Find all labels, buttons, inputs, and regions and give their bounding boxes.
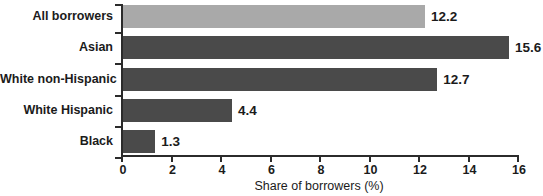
- x-tick: [121, 155, 123, 162]
- bar-chart: All borrowers12.2Asian15.6White non-Hisp…: [0, 0, 543, 196]
- bar-value-label: 15.6: [515, 36, 541, 59]
- bar-row: Black1.3: [0, 130, 543, 153]
- x-tick-label: 14: [450, 163, 490, 177]
- category-label: All borrowers: [0, 5, 113, 28]
- x-tick-label: 16: [499, 163, 539, 177]
- bar-value-label: 12.2: [431, 5, 457, 28]
- bar: [123, 130, 155, 153]
- y-tick: [115, 126, 122, 128]
- x-axis-title: Share of borrowers (%): [121, 179, 517, 193]
- x-tick-label: 10: [351, 163, 391, 177]
- bar-row: White Hispanic4.4: [0, 99, 543, 122]
- x-tick: [270, 155, 272, 162]
- y-tick: [115, 32, 122, 34]
- category-label: Black: [0, 130, 113, 153]
- x-tick-label: 8: [301, 163, 341, 177]
- y-tick: [115, 95, 122, 97]
- bar: [123, 99, 232, 122]
- x-tick: [418, 155, 420, 162]
- x-tick: [220, 155, 222, 162]
- bar-row: Asian15.6: [0, 36, 543, 59]
- x-tick: [369, 155, 371, 162]
- x-tick-label: 12: [400, 163, 440, 177]
- category-label: White non-Hispanic: [0, 68, 113, 91]
- x-tick-label: 4: [202, 163, 242, 177]
- x-tick-label: 0: [103, 163, 143, 177]
- bar-row: White non-Hispanic12.7: [0, 68, 543, 91]
- bar: [123, 5, 425, 28]
- bar-value-label: 1.3: [161, 130, 180, 153]
- x-tick: [171, 155, 173, 162]
- category-label: Asian: [0, 36, 113, 59]
- y-tick: [115, 63, 122, 65]
- category-label: White Hispanic: [0, 99, 113, 122]
- bar-value-label: 12.7: [443, 68, 469, 91]
- bar: [123, 36, 509, 59]
- bar: [123, 68, 437, 91]
- x-tick: [319, 155, 321, 162]
- bar-row: All borrowers12.2: [0, 5, 543, 28]
- x-tick-label: 2: [153, 163, 193, 177]
- x-tick: [517, 155, 519, 162]
- x-tick-label: 6: [252, 163, 292, 177]
- x-tick: [468, 155, 470, 162]
- bar-value-label: 4.4: [238, 99, 257, 122]
